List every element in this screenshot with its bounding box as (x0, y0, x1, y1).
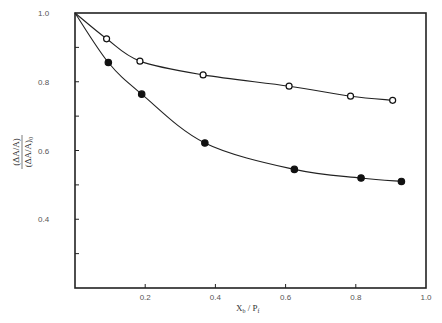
open-circle-point (104, 36, 110, 42)
y-tick-label: 1.0 (38, 9, 50, 18)
x-axis-label: Xb / Pf (236, 303, 260, 314)
x-axis-label-text: Xb / Pf (236, 303, 260, 314)
y-tick-label: 0.6 (38, 147, 50, 156)
data-points (104, 36, 405, 185)
x-tick-label: 0.2 (140, 293, 152, 302)
x-tick-label: 0.4 (210, 293, 222, 302)
x-tick-label: 1.0 (420, 293, 432, 302)
filled-circle-point (291, 166, 297, 172)
filled-circle-point (202, 140, 208, 146)
y-axis-label-numerator: (ΔA/A) (11, 138, 21, 165)
x-tick-label: 0.6 (280, 293, 292, 302)
filled-circle-point (105, 59, 111, 65)
filled-circle-point (138, 91, 144, 97)
y-tick-label: 0.8 (38, 78, 50, 87)
open-circle-point (137, 58, 143, 64)
filled-circle-point (358, 175, 364, 181)
x-tick-label: 0.8 (350, 293, 362, 302)
open-circle-point (390, 97, 396, 103)
y-axis-ticks: 0.40.60.81.0 (38, 9, 79, 254)
y-axis-label: (ΔA/A) (ΔA/A)₀ (11, 135, 33, 169)
plot-frame (75, 13, 426, 288)
filled-circle-point (398, 178, 404, 184)
y-tick-label: 0.4 (38, 215, 50, 224)
chart: 0.40.60.81.0 0.20.40.60.81.0 (ΔA/A) (ΔA/… (0, 0, 442, 323)
open-circle-point (286, 83, 292, 89)
x-axis-ticks: 0.20.40.60.81.0 (140, 284, 432, 302)
fit-curve (75, 13, 393, 100)
open-circle-point (348, 93, 354, 99)
y-axis-label-denominator: (ΔA/A)₀ (23, 137, 33, 167)
open-circle-point (200, 72, 206, 78)
